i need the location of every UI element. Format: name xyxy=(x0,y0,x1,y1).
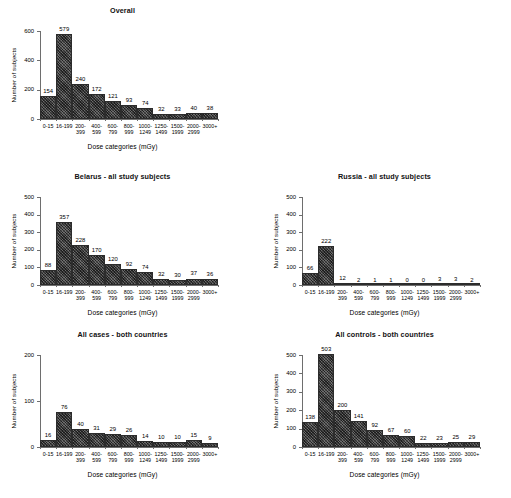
x-axis-tick xyxy=(105,119,106,121)
y-axis-tick-label: 200 xyxy=(0,86,34,92)
x-axis-label: Dose categories (mGy) xyxy=(262,471,507,478)
x-axis-tick-label-line1: 3000+ xyxy=(464,451,479,457)
x-axis-tick xyxy=(137,447,138,449)
bar-value-label: 170 xyxy=(84,247,110,253)
bar xyxy=(351,283,367,285)
x-axis-tick xyxy=(464,447,465,449)
bar xyxy=(153,279,169,285)
x-axis-tick-label-line2: 2999 xyxy=(188,295,200,301)
bar xyxy=(202,443,218,447)
y-axis-tick-label: 400 xyxy=(262,211,296,217)
bar xyxy=(302,273,318,285)
plot-overall: Number of subjects02004006001540-1557916… xyxy=(0,17,245,163)
y-axis-tick xyxy=(37,31,40,32)
bar-value-label: 74 xyxy=(132,100,158,106)
bar xyxy=(334,283,350,285)
x-axis-tick-label-line1: 3000+ xyxy=(202,123,217,129)
x-axis-tick xyxy=(105,447,106,449)
plot-all-controls: Number of subjects01002003004005001380-1… xyxy=(262,341,507,491)
bar xyxy=(415,283,431,285)
y-axis-tick xyxy=(299,250,302,251)
bar xyxy=(89,433,105,447)
bar-value-label: 503 xyxy=(313,346,339,352)
bar xyxy=(318,354,334,447)
x-axis-tick xyxy=(448,447,449,449)
y-axis-tick-label: 300 xyxy=(262,229,296,235)
x-axis-tick xyxy=(464,285,465,287)
bar xyxy=(72,429,88,447)
x-axis-tick xyxy=(137,119,138,121)
bar xyxy=(399,283,415,285)
bar xyxy=(40,96,56,119)
chart-panel-belarus: Belarus - all study subjects Number of s… xyxy=(0,172,245,332)
y-axis-tick xyxy=(37,355,40,356)
bar xyxy=(169,114,185,119)
bar-value-label: 240 xyxy=(67,76,93,82)
x-axis-tick xyxy=(202,285,203,287)
bar-value-label: 579 xyxy=(51,26,77,32)
bar xyxy=(383,283,399,285)
y-axis-tick-label: 500 xyxy=(262,194,296,200)
bar xyxy=(105,264,121,285)
x-axis-tick xyxy=(186,119,187,121)
y-axis-tick-label: 300 xyxy=(262,388,296,394)
y-axis-tick xyxy=(299,215,302,216)
x-axis-tick xyxy=(40,119,41,121)
x-axis-tick xyxy=(72,285,73,287)
x-axis-tick-label-line2: 2999 xyxy=(450,295,462,301)
y-axis-tick xyxy=(299,197,302,198)
bar-value-label: 74 xyxy=(132,264,158,270)
x-axis-tick xyxy=(186,285,187,287)
x-axis-tick xyxy=(202,447,203,449)
bar xyxy=(40,440,56,447)
x-axis-tick xyxy=(56,119,57,121)
bar xyxy=(137,441,153,447)
x-axis-label: Dose categories (mGy) xyxy=(0,471,245,478)
y-axis-tick-label: 500 xyxy=(0,194,34,200)
x-axis-tick xyxy=(153,447,154,449)
chart-title: All cases - both countries xyxy=(0,330,245,339)
x-axis-tick-label-line1: 3000+ xyxy=(202,451,217,457)
x-axis-tick xyxy=(218,119,219,121)
bar xyxy=(464,442,480,447)
x-axis-tick xyxy=(415,285,416,287)
y-axis-tick-label: 100 xyxy=(0,264,34,270)
x-axis-tick xyxy=(121,119,122,121)
y-axis-label: Number of subjects xyxy=(272,355,279,447)
x-axis-tick xyxy=(89,285,90,287)
y-axis-tick-label: 200 xyxy=(0,352,34,358)
x-axis-tick xyxy=(169,285,170,287)
plot-russia: Number of subjects0100200300400500660-15… xyxy=(262,183,507,329)
y-axis-tick-label: 400 xyxy=(262,370,296,376)
bar-value-label: 141 xyxy=(346,413,372,419)
x-axis-tick xyxy=(121,447,122,449)
chart-title: Belarus - all study subjects xyxy=(0,172,245,181)
chart-title: All controls - both countries xyxy=(262,330,507,339)
x-axis-tick xyxy=(218,447,219,449)
plot-belarus: Number of subjects0100200300400500880-15… xyxy=(0,183,245,329)
x-axis-tick xyxy=(399,285,400,287)
x-axis-label: Dose categories (mGy) xyxy=(0,143,245,150)
bar xyxy=(186,113,202,119)
y-axis-tick-label: 300 xyxy=(0,229,34,235)
y-axis-tick xyxy=(299,232,302,233)
y-axis-tick-label: 0 xyxy=(0,116,34,122)
x-axis-tick-label: 3000+ xyxy=(196,123,224,129)
x-axis-tick-label-line1: 3000+ xyxy=(464,289,479,295)
bar xyxy=(56,412,72,447)
bar-value-label: 172 xyxy=(84,86,110,92)
y-axis-tick-label: 100 xyxy=(262,425,296,431)
bar xyxy=(431,283,447,285)
x-axis-tick xyxy=(480,447,481,449)
x-axis-line xyxy=(40,285,218,286)
y-axis-tick-label: 100 xyxy=(262,264,296,270)
y-axis-label: Number of subjects xyxy=(10,31,17,119)
bar xyxy=(169,280,185,285)
bar xyxy=(448,283,464,285)
x-axis-tick xyxy=(121,285,122,287)
x-axis-tick xyxy=(153,119,154,121)
x-axis-tick xyxy=(334,447,335,449)
y-axis-tick-label: 400 xyxy=(0,211,34,217)
bar xyxy=(202,113,218,119)
bar xyxy=(169,442,185,447)
